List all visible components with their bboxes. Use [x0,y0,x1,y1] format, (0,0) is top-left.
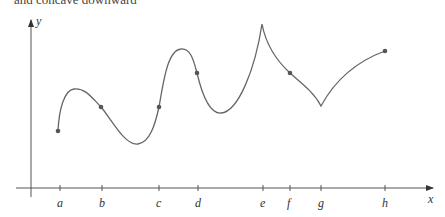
point-c [157,105,162,110]
y-axis-label: y [35,14,42,28]
point-a [56,129,61,134]
tick-label-h: h [382,196,388,210]
point-d [195,71,200,76]
tick-label-a: a [57,196,63,210]
tick-label-f: f [287,196,292,210]
point-h [383,49,388,54]
curve-figure: y x a b c d e f g h [0,0,445,217]
tick-label-c: c [156,196,162,210]
function-curve [58,24,385,144]
point-b [99,105,104,110]
tick-label-g: g [318,196,324,210]
tick-label-e: e [260,196,266,210]
x-axis-label: x [427,192,434,206]
tick-label-b: b [99,196,105,210]
marked-points [56,49,388,134]
tick-label-d: d [195,196,202,210]
point-f [288,71,293,76]
